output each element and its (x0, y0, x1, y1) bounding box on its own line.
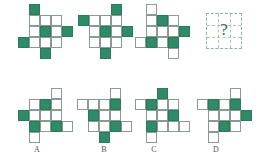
empty-cell (29, 99, 40, 110)
empty-cell (111, 15, 122, 26)
empty-cell (51, 37, 62, 48)
empty-cell (99, 110, 110, 121)
shaded-cell (18, 37, 29, 48)
empty-cell (146, 26, 157, 37)
empty-cell (146, 15, 157, 26)
shaded-cell (78, 15, 89, 26)
shaded-cell (18, 110, 29, 121)
empty-cell (89, 15, 100, 26)
shaded-cell (146, 37, 157, 48)
empty-cell (197, 99, 208, 110)
shaded-cell (111, 4, 122, 15)
empty-cell (146, 132, 157, 143)
empty-cell (157, 99, 168, 110)
shaded-cell (146, 121, 157, 132)
empty-cell (135, 99, 146, 110)
empty-cell (208, 110, 219, 121)
shaded-cell (110, 121, 121, 132)
empty-cell (135, 37, 146, 48)
shaded-cell (29, 121, 40, 132)
empty-cell (29, 132, 40, 143)
empty-cell (168, 99, 179, 110)
empty-cell (88, 121, 99, 132)
empty-cell (146, 4, 157, 15)
empty-cell (230, 121, 241, 132)
shaded-cell (146, 99, 157, 110)
empty-cell (40, 37, 51, 48)
empty-cell (77, 99, 88, 110)
empty-cell (29, 15, 40, 26)
question-mark: ? (207, 20, 241, 40)
shaded-cell (110, 99, 121, 110)
empty-cell (40, 121, 51, 132)
empty-cell (110, 110, 121, 121)
empty-cell (168, 26, 179, 37)
shaded-cell (168, 110, 179, 121)
empty-cell (40, 110, 51, 121)
shaded-cell (40, 48, 51, 59)
empty-cell (157, 121, 168, 132)
empty-cell (51, 110, 62, 121)
empty-cell (121, 121, 132, 132)
empty-cell (208, 132, 219, 143)
option-d-label[interactable]: D (210, 145, 222, 154)
empty-cell (51, 26, 62, 37)
empty-cell (219, 110, 230, 121)
shaded-cell (122, 26, 133, 37)
empty-cell (168, 15, 179, 26)
empty-cell (179, 121, 190, 132)
shaded-cell (40, 99, 51, 110)
empty-cell (89, 37, 100, 48)
empty-cell (51, 99, 62, 110)
empty-cell (99, 121, 110, 132)
empty-cell (157, 37, 168, 48)
empty-cell (230, 88, 241, 99)
empty-cell (146, 110, 157, 121)
question-box: ? (206, 13, 242, 49)
shaded-cell (241, 110, 252, 121)
empty-cell (29, 26, 40, 37)
empty-cell (29, 37, 40, 48)
empty-cell (168, 48, 179, 59)
option-b-label[interactable]: B (98, 145, 110, 154)
empty-cell (51, 15, 62, 26)
empty-cell (219, 99, 230, 110)
shaded-cell (100, 48, 111, 59)
empty-cell (157, 26, 168, 37)
shaded-cell (100, 26, 111, 37)
shaded-cell (99, 132, 110, 143)
empty-cell (230, 110, 241, 121)
shaded-cell (168, 37, 179, 48)
option-c-label[interactable]: C (148, 145, 160, 154)
shaded-cell (51, 121, 62, 132)
shaded-cell (88, 110, 99, 121)
shaded-cell (219, 121, 230, 132)
shaded-cell (40, 26, 51, 37)
empty-cell (40, 15, 51, 26)
empty-cell (157, 110, 168, 121)
empty-cell (29, 110, 40, 121)
empty-cell (89, 26, 100, 37)
shaded-cell (230, 99, 241, 110)
option-a-label[interactable]: A (31, 145, 43, 154)
empty-cell (111, 37, 122, 48)
empty-cell (51, 88, 62, 99)
empty-cell (208, 121, 219, 132)
empty-cell (100, 15, 111, 26)
shaded-cell (208, 99, 219, 110)
empty-cell (110, 88, 121, 99)
empty-cell (99, 99, 110, 110)
empty-cell (111, 26, 122, 37)
shaded-cell (179, 26, 190, 37)
empty-cell (62, 121, 73, 132)
empty-cell (168, 121, 179, 132)
empty-cell (88, 99, 99, 110)
empty-cell (100, 37, 111, 48)
shaded-cell (157, 88, 168, 99)
shaded-cell (29, 4, 40, 15)
shaded-cell (157, 15, 168, 26)
shaded-cell (62, 26, 73, 37)
